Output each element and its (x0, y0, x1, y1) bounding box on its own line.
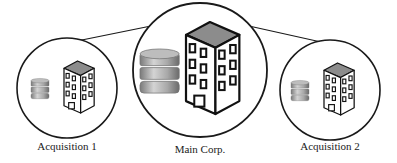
database-icon (140, 49, 179, 93)
node-acquisition-1 (17, 38, 117, 138)
database-icon (31, 78, 49, 98)
node-acquisition-2 (280, 40, 380, 140)
label-acquisition-2: Acquisition 2 (280, 140, 380, 152)
label-acquisition-1: Acquisition 1 (17, 140, 117, 152)
office-building-icon (64, 61, 94, 113)
database-icon (291, 80, 309, 100)
label-main-corp: Main Corp. (150, 143, 250, 155)
corporate-structure-diagram (0, 0, 397, 163)
node-main-corp (133, 3, 267, 137)
office-building-icon (186, 22, 239, 114)
office-building-icon (324, 63, 354, 115)
